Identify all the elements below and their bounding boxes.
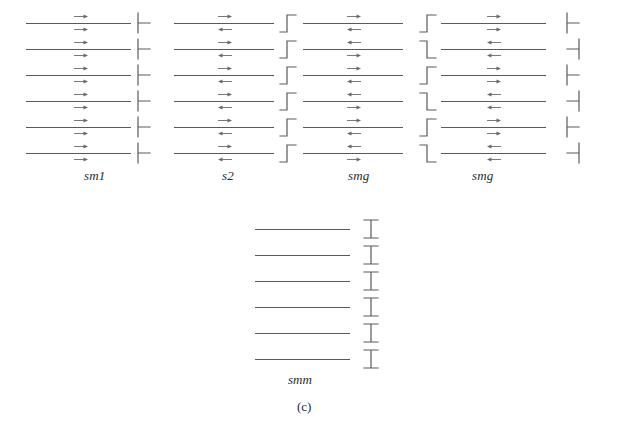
group-label: smg	[472, 168, 494, 184]
group-label: sm1	[84, 168, 106, 184]
beam-line	[255, 255, 350, 256]
arrow-right-icon	[218, 39, 232, 46]
beam-line	[26, 101, 131, 102]
beam-line	[303, 23, 403, 24]
left-tee-icon	[562, 10, 588, 36]
arrow-right-icon	[74, 143, 88, 150]
beam-line	[26, 49, 131, 50]
arrow-right-icon	[218, 65, 232, 72]
left-tee-icon	[133, 140, 159, 166]
arrow-right-icon	[218, 91, 232, 98]
arrow-right-icon	[74, 65, 88, 72]
step-up-icon	[417, 10, 443, 36]
beam-line	[174, 75, 274, 76]
beam-line	[174, 153, 274, 154]
arrow-left-icon	[487, 52, 501, 59]
arrow-right-icon	[347, 65, 361, 72]
arrow-right-icon	[487, 78, 501, 85]
arrow-right-icon	[218, 117, 232, 124]
arrow-right-icon	[74, 78, 88, 85]
arrow-left-icon	[218, 26, 232, 33]
beam-line	[255, 307, 350, 308]
step-up-icon	[277, 10, 303, 36]
arrow-right-icon	[347, 13, 361, 20]
arrow-right-icon	[218, 13, 232, 20]
step-up-icon	[417, 114, 443, 140]
beam-line	[303, 153, 403, 154]
step-up-icon	[277, 36, 303, 62]
arrow-right-icon	[218, 143, 232, 150]
arrow-right-icon	[74, 13, 88, 20]
step-down-icon	[417, 36, 443, 62]
step-up-icon	[277, 114, 303, 140]
beam-line	[26, 153, 131, 154]
i-beam-icon	[360, 320, 386, 346]
arrow-left-icon	[487, 143, 501, 150]
left-tee-icon	[562, 62, 588, 88]
arrow-left-icon	[487, 91, 501, 98]
left-tee-icon	[133, 114, 159, 140]
figure-caption: (c)	[297, 399, 311, 415]
right-tee-icon	[562, 88, 588, 114]
arrow-left-icon	[218, 52, 232, 59]
arrow-right-icon	[487, 65, 501, 72]
beam-line	[255, 333, 350, 334]
right-tee-icon	[562, 140, 588, 166]
arrow-right-icon	[487, 130, 501, 137]
beam-line	[174, 49, 274, 50]
left-tee-icon	[133, 10, 159, 36]
arrow-right-icon	[74, 39, 88, 46]
arrow-right-icon	[487, 117, 501, 124]
arrow-right-icon	[74, 130, 88, 137]
beam-line	[441, 49, 546, 50]
i-beam-icon	[360, 242, 386, 268]
step-up-icon	[277, 140, 303, 166]
beam-line	[174, 127, 274, 128]
arrow-left-icon	[487, 104, 501, 111]
beam-line	[441, 101, 546, 102]
i-beam-icon	[360, 346, 386, 372]
beam-line	[26, 127, 131, 128]
arrow-left-icon	[347, 78, 361, 85]
beam-line	[303, 101, 403, 102]
arrow-left-icon	[347, 39, 361, 46]
arrow-right-icon	[347, 52, 361, 59]
beam-line	[255, 359, 350, 360]
beam-line	[441, 75, 546, 76]
step-down-icon	[417, 88, 443, 114]
arrow-right-icon	[74, 104, 88, 111]
arrow-right-icon	[74, 91, 88, 98]
arrow-left-icon	[218, 156, 232, 163]
arrow-right-icon	[74, 117, 88, 124]
arrow-right-icon	[347, 156, 361, 163]
arrow-left-icon	[487, 156, 501, 163]
beam-line	[303, 127, 403, 128]
arrow-left-icon	[347, 91, 361, 98]
arrow-left-icon	[347, 130, 361, 137]
step-up-icon	[277, 62, 303, 88]
arrow-right-icon	[74, 156, 88, 163]
arrow-left-icon	[218, 130, 232, 137]
left-tee-icon	[133, 62, 159, 88]
figure-canvas: sm1s2smgsmgsmm(c)	[0, 0, 620, 427]
group-label: smm	[288, 372, 312, 388]
group-label: smg	[348, 168, 370, 184]
left-tee-icon	[562, 114, 588, 140]
group-label: s2	[222, 168, 234, 184]
arrow-left-icon	[218, 78, 232, 85]
beam-line	[26, 23, 131, 24]
beam-line	[303, 75, 403, 76]
arrow-right-icon	[487, 26, 501, 33]
arrow-left-icon	[487, 39, 501, 46]
beam-line	[441, 23, 546, 24]
arrow-left-icon	[347, 26, 361, 33]
beam-line	[441, 153, 546, 154]
right-tee-icon	[562, 36, 588, 62]
i-beam-icon	[360, 216, 386, 242]
arrow-left-icon	[218, 104, 232, 111]
arrow-right-icon	[487, 13, 501, 20]
i-beam-icon	[360, 268, 386, 294]
beam-line	[174, 23, 274, 24]
arrow-left-icon	[347, 143, 361, 150]
step-up-icon	[277, 88, 303, 114]
